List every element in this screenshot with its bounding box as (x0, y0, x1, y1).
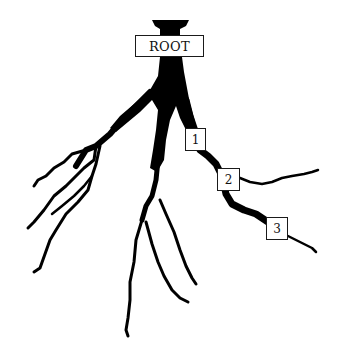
marker-1-label: 1 (185, 128, 206, 151)
marker-3-label: 3 (266, 217, 288, 240)
branch-center-left (126, 220, 142, 336)
branch-center (142, 140, 162, 220)
branch-left-main (76, 92, 150, 166)
trunk (110, 57, 197, 172)
marker-2-label: 2 (217, 168, 240, 191)
branch-right (186, 100, 268, 222)
stem-cap (152, 20, 189, 36)
branch-right-lateral (240, 170, 318, 184)
root-label: ROOT (135, 35, 204, 57)
branch-center-mid (146, 222, 188, 302)
branch-center-right (160, 200, 196, 284)
branch-right-tip (288, 236, 316, 252)
branch-left-2 (28, 146, 96, 228)
